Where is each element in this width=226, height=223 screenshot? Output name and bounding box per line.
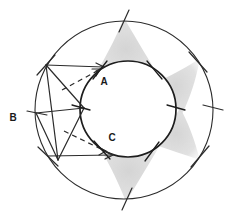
geometry-figure: A B C (0, 0, 226, 223)
segment-upper-node-to-lower-node (46, 65, 58, 160)
segment-b-to-inner-node (36, 108, 84, 113)
point-label-a: A (100, 76, 107, 87)
inner-circle (80, 61, 176, 157)
shade-bottom (95, 140, 162, 202)
point-label-c: C (108, 132, 115, 143)
segment-upper-node-to-inner-node (46, 65, 84, 108)
tick-outer-lower-left-icon (38, 147, 58, 166)
geometry-canvas: A B C (0, 0, 226, 223)
dashed-segment-upper (62, 70, 99, 90)
segment-top-to-A (46, 65, 103, 67)
segment-inner-node-to-lower-node (58, 108, 84, 160)
point-label-b: B (9, 112, 16, 123)
shade-top (92, 18, 160, 80)
